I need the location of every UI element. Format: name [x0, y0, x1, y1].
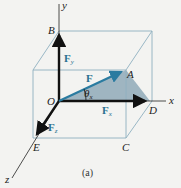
figure-caption: (a)	[82, 167, 93, 179]
x-axis-label: x	[168, 94, 174, 106]
point-c-label: C	[122, 141, 130, 153]
point-e-label: E	[32, 141, 40, 153]
point-b-label: B	[48, 24, 55, 36]
y-axis-label: y	[61, 0, 67, 11]
fz-label: Fz	[48, 121, 58, 135]
shaded-plane	[59, 70, 150, 101]
f-label: F	[86, 72, 93, 84]
point-o-label: O	[47, 95, 55, 107]
fx-label: Fx	[102, 104, 113, 118]
fy-label: Fy	[64, 52, 75, 66]
force-components-diagram: y x z B A O D E C Fy F Fx Fz θx (a)	[0, 0, 181, 188]
point-a-label: A	[126, 68, 134, 80]
z-axis-label: z	[4, 173, 10, 185]
point-d-label: D	[148, 104, 157, 116]
